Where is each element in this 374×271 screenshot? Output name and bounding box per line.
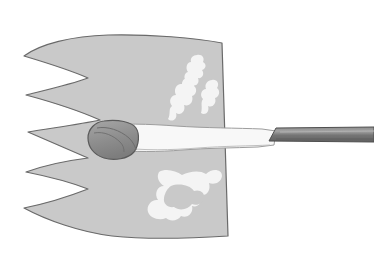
probe-rod xyxy=(269,127,374,142)
dark-nodule xyxy=(88,120,138,159)
figure-canvas xyxy=(0,0,374,271)
rod-shape xyxy=(269,127,374,142)
illustration-svg xyxy=(0,0,374,271)
